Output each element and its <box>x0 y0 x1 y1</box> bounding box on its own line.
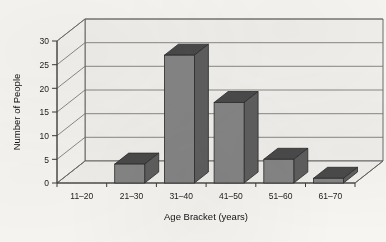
y-axis-title: Number of People <box>11 74 22 151</box>
y-tick-label-0: 0 <box>44 178 49 188</box>
x-tick-label-51-60: 51–60 <box>269 191 293 201</box>
y-tick-label-5: 5 <box>44 155 49 165</box>
x-tick-marks <box>57 183 355 187</box>
chart-canvas: 30 25 20 15 10 5 0 Number of People <box>0 0 386 242</box>
y-tick-labels: 30 25 20 15 10 5 0 <box>40 36 50 188</box>
y-tick-marks <box>52 41 57 183</box>
y-tick-label-10: 10 <box>40 131 50 141</box>
x-tick-labels: 11–20 21–30 31–40 41–50 51–60 61–70 <box>70 191 342 201</box>
x-tick-label-31-40: 31–40 <box>169 191 193 201</box>
bar-31-40 <box>164 44 208 183</box>
y-tick-label-25: 25 <box>40 60 50 70</box>
x-tick-label-21-30: 21–30 <box>120 191 144 201</box>
x-tick-label-41-50: 41–50 <box>219 191 243 201</box>
x-tick-label-61-70: 61–70 <box>318 191 342 201</box>
x-tick-label-11-20: 11–20 <box>70 191 93 201</box>
bar-41-50 <box>214 92 258 184</box>
y-tick-label-20: 20 <box>40 84 50 94</box>
y-tick-label-15: 15 <box>40 107 50 117</box>
x-axis-title: Age Bracket (years) <box>164 211 248 222</box>
y-tick-label-30: 30 <box>40 36 50 46</box>
